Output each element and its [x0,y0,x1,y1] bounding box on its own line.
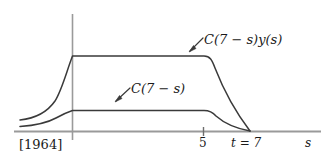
annotation-arrow-upper [189,38,203,52]
curve-label-upper: C(7 − s)y(s) [204,33,282,46]
curve-label-lower: C(7 − s) [131,82,185,95]
x-tick-label-5: 5 [199,137,207,149]
x-axis-label: s [305,137,311,149]
curve-lower [20,111,250,132]
figure-container: C(7 − s)y(s) C(7 − s) 5 t = 7 s [1964] [0,0,333,162]
citation-label: [1964] [19,138,62,151]
x-tick-label-t-equals-7: t = 7 [231,137,261,149]
annotation-arrow-lower [115,88,130,102]
